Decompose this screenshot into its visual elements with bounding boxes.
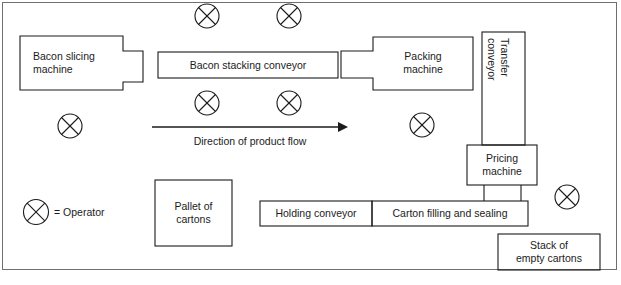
pricing-machine-label-line1: Pricing: [467, 152, 537, 165]
pallet-of-cartons-label-line1: Pallet of: [155, 200, 232, 213]
operator-symbol-4: [277, 91, 301, 115]
pricing-machine-label-line2: machine: [467, 165, 537, 178]
transfer-conveyor-label-line2: conveyor: [485, 38, 498, 81]
pallet-of-cartons-label-line2: cartons: [155, 213, 232, 226]
transfer-conveyor-label-line1: Transfer: [498, 38, 511, 77]
operator-symbol-7: [555, 185, 579, 209]
packing-machine-label-line2: machine: [373, 63, 473, 76]
operator-symbol-6: [410, 113, 434, 137]
bacon-stacking-conveyor-label: Bacon stacking conveyor: [158, 59, 338, 72]
stack-of-empty-cartons-label-line1: Stack of: [498, 239, 600, 252]
product-flow-arrow-label: Direction of product flow: [152, 135, 348, 148]
operator-symbol-2: [277, 4, 301, 28]
bacon-slicing-machine-label-line1: Bacon slicing: [33, 50, 95, 63]
pricing-machine-outlet-stub: [484, 185, 521, 201]
operator-symbol-1: [195, 4, 219, 28]
holding-conveyor-label: Holding conveyor: [260, 207, 372, 220]
operator-symbol-5: [58, 114, 82, 138]
stack-of-empty-cartons-label-line2: empty cartons: [498, 252, 600, 265]
product-flow-arrow-icon: [152, 122, 348, 132]
carton-filling-and-sealing-label: Carton filling and sealing: [372, 207, 528, 220]
legend-operator-symbol-icon: [24, 200, 49, 225]
packing-machine-label-line1: Packing: [373, 50, 473, 63]
legend-operator-label: = Operator: [54, 206, 105, 219]
diagram-canvas: Bacon slicing machine Bacon stacking con…: [0, 0, 621, 285]
bacon-slicing-machine-label-line2: machine: [33, 63, 73, 76]
operator-symbol-3: [195, 91, 219, 115]
